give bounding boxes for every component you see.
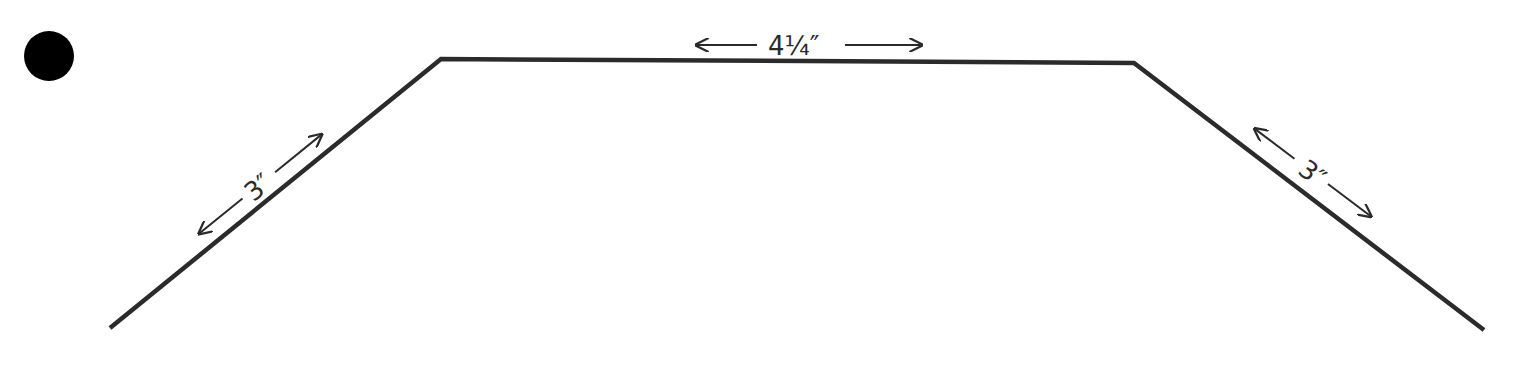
left-dimension-label: 3″ <box>238 167 278 207</box>
bullet-marker-icon <box>24 31 74 81</box>
top-dimension: 4¼″ <box>696 31 922 61</box>
left-dimension-arrow-up-icon <box>275 134 322 172</box>
trapezoid-diagram: 4¼″ 3″ 3″ <box>0 0 1521 389</box>
top-dimension-label: 4¼″ <box>768 31 820 61</box>
right-dimension-arrow-down-icon <box>1328 184 1371 216</box>
left-dimension: 3″ <box>190 124 332 247</box>
trapezoid-outline <box>110 59 1484 330</box>
right-dimension: 3″ <box>1245 117 1380 229</box>
right-dimension-arrow-up-icon <box>1254 129 1294 159</box>
